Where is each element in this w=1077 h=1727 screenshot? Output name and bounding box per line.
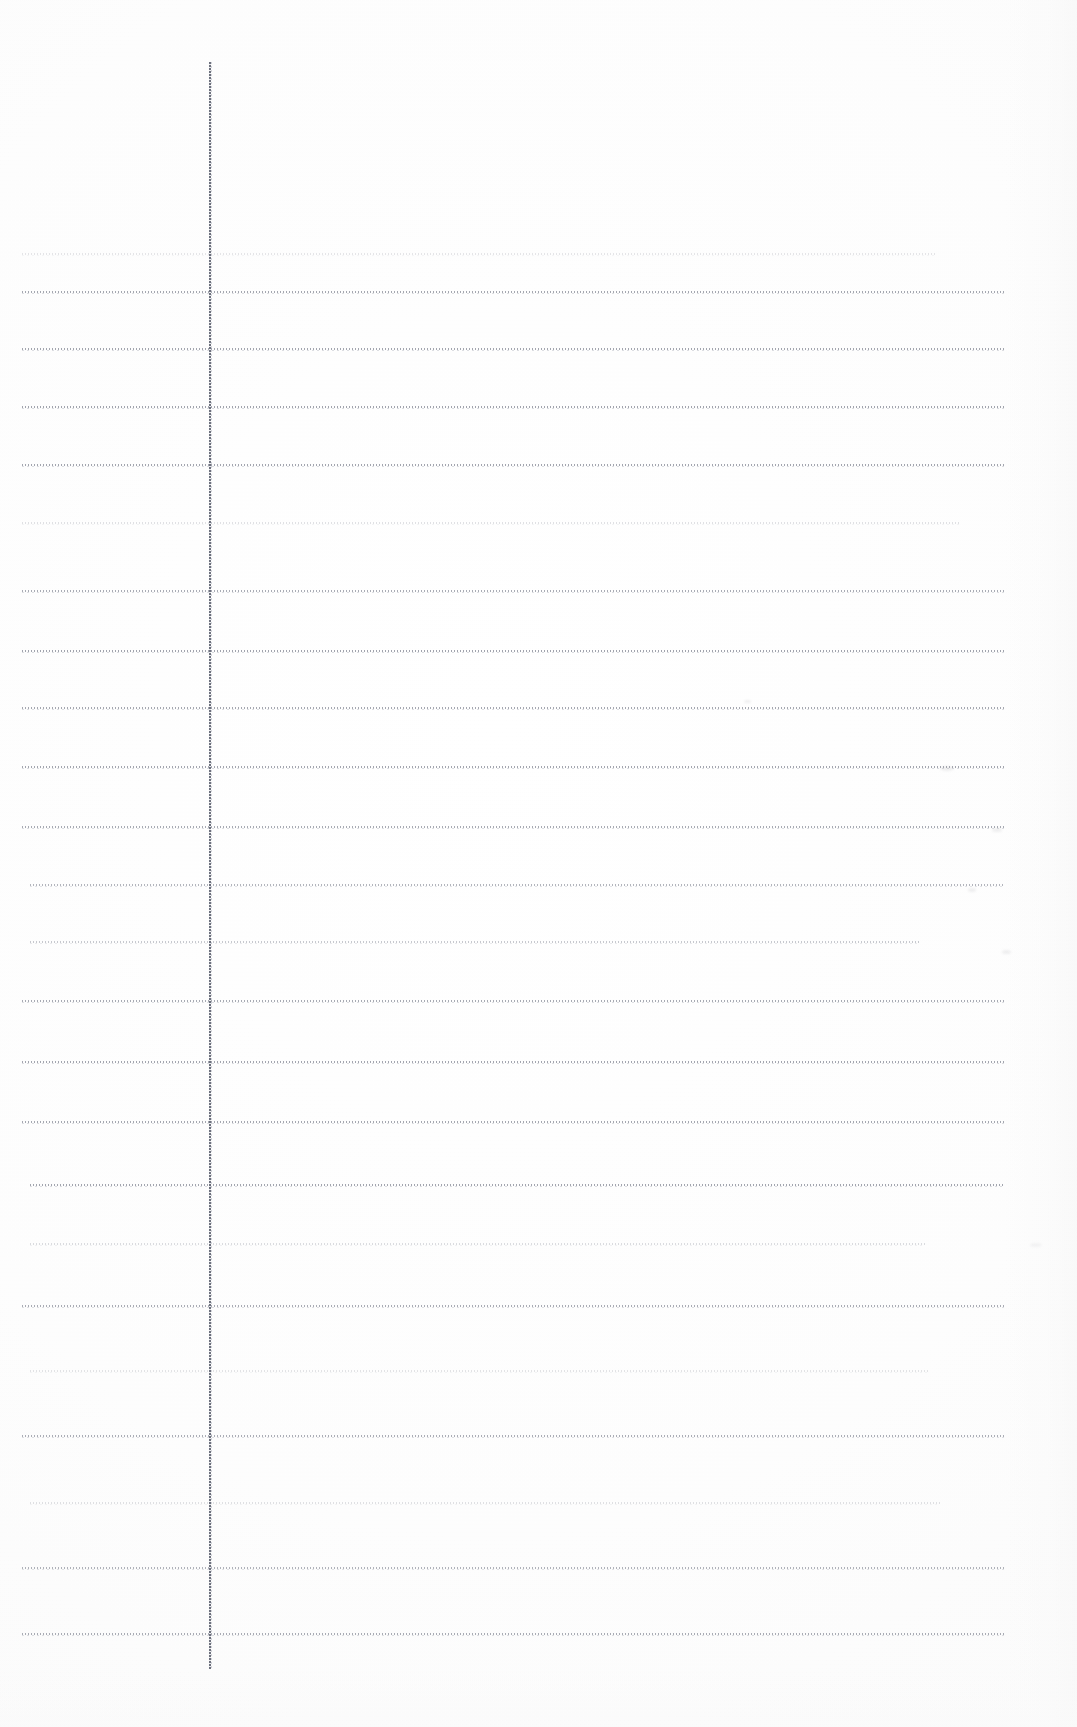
ruled-line [30, 1243, 925, 1245]
ruled-line [22, 348, 1005, 350]
vertical-margin-line [209, 62, 211, 1669]
ruled-line [22, 1305, 1005, 1307]
ruled-line [22, 522, 960, 524]
ruled-line [22, 253, 935, 255]
ruled-line [22, 1000, 1005, 1002]
ruled-line [30, 1370, 930, 1372]
ruled-line [30, 941, 920, 943]
ruled-line [22, 707, 1005, 709]
ruled-line [30, 1502, 940, 1504]
ruled-line [22, 650, 1005, 652]
ruled-line [22, 1061, 1005, 1063]
ruled-line [22, 1633, 1005, 1635]
ruled-line [22, 590, 1005, 592]
ruled-line [22, 464, 1005, 466]
ruled-line [22, 1435, 1005, 1437]
ruled-line [30, 1184, 1005, 1186]
ruled-line [22, 766, 1005, 768]
ruled-line [22, 1121, 1005, 1123]
ruled-line [22, 291, 1005, 293]
scanned-notebook-page [0, 0, 1077, 1727]
ruled-line [30, 884, 1005, 886]
ruled-line [22, 406, 1005, 408]
paper-surface [0, 0, 1077, 1727]
ruled-line [22, 1567, 1005, 1569]
ruled-line [22, 826, 1005, 828]
